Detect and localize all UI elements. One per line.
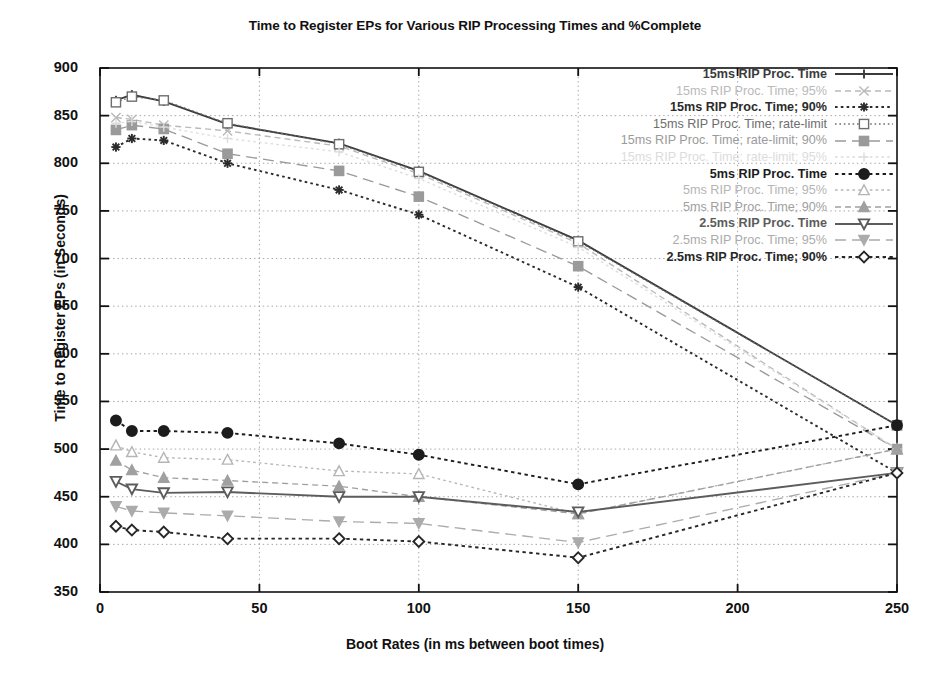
y-axis-ticks: 350400450500550600650700750800850900 xyxy=(20,0,78,673)
x-tick-label: 50 xyxy=(224,600,294,616)
legend-item[interactable]: 15ms RIP Proc. Time; rate-limit; 90% xyxy=(621,132,895,149)
legend-sample-swatch xyxy=(833,99,895,115)
data-point-marker xyxy=(859,70,868,79)
legend-item[interactable]: 5ms RIP Proc. Time; 90% xyxy=(683,199,895,216)
data-point-marker xyxy=(111,455,121,465)
data-point-marker xyxy=(158,527,169,538)
y-tick-label: 700 xyxy=(20,250,78,266)
data-point-marker xyxy=(334,533,345,544)
series-line xyxy=(116,421,897,485)
data-point-marker xyxy=(334,492,344,502)
data-point-marker xyxy=(111,416,121,426)
data-point-marker xyxy=(222,454,232,464)
data-point-marker xyxy=(127,134,136,143)
data-point-marker xyxy=(127,426,137,436)
y-tick-label: 500 xyxy=(20,440,78,456)
legend-item-label: 2.5ms RIP Proc. Time xyxy=(699,217,827,230)
data-point-marker xyxy=(859,136,868,145)
y-tick-label: 400 xyxy=(20,535,78,551)
series-line xyxy=(116,445,897,514)
legend-item[interactable]: 2.5ms RIP Proc. Time xyxy=(699,215,895,232)
legend-sample-swatch xyxy=(833,232,895,248)
data-point-marker xyxy=(111,142,120,151)
legend-item[interactable]: 15ms RIP Proc. Time xyxy=(703,66,895,83)
x-tick-label: 150 xyxy=(543,600,613,616)
data-point-marker xyxy=(222,533,233,544)
data-point-marker xyxy=(126,525,137,536)
y-tick-label: 350 xyxy=(20,583,78,599)
data-point-marker xyxy=(573,552,584,563)
legend-sample-swatch xyxy=(833,182,895,198)
legend-item-label: 2.5ms RIP Proc. Time; 95% xyxy=(673,234,827,247)
data-point-marker xyxy=(127,447,137,457)
data-point-marker xyxy=(335,166,344,175)
legend-sample-swatch xyxy=(833,149,895,165)
data-point-marker xyxy=(859,103,868,112)
legend-item-label: 5ms RIP Proc. Time; 90% xyxy=(683,201,827,214)
series-9 xyxy=(111,468,902,517)
legend-item[interactable]: 2.5ms RIP Proc. Time; 90% xyxy=(666,249,895,266)
legend-item[interactable]: 15ms RIP Proc. Time; rate-limit xyxy=(653,116,895,133)
data-point-marker xyxy=(859,169,869,179)
data-point-marker xyxy=(127,485,137,495)
series-line xyxy=(116,473,897,543)
data-point-marker xyxy=(111,502,121,512)
x-tick-label: 100 xyxy=(384,600,454,616)
data-point-marker xyxy=(859,153,868,162)
data-point-marker xyxy=(414,210,423,219)
y-tick-label: 550 xyxy=(20,392,78,408)
chart-container: Time to Register EPs for Various RIP Pro… xyxy=(0,0,950,673)
legend-item-label: 15ms RIP Proc. Time; 90% xyxy=(670,101,827,114)
data-point-marker xyxy=(222,487,232,497)
legend-item-label: 5ms RIP Proc. Time; 95% xyxy=(683,184,827,197)
data-point-marker xyxy=(859,251,870,262)
data-point-marker xyxy=(111,521,122,532)
legend-sample-swatch xyxy=(833,133,895,149)
legend-sample-swatch xyxy=(833,83,895,99)
data-point-marker xyxy=(127,92,136,101)
data-point-marker xyxy=(413,536,424,547)
series-8 xyxy=(111,444,902,519)
data-point-marker xyxy=(573,538,583,548)
legend-item-label: 5ms RIP Proc. Time xyxy=(710,168,827,181)
data-point-marker xyxy=(159,426,169,436)
chart-title: Time to Register EPs for Various RIP Pro… xyxy=(0,18,950,33)
legend-item[interactable]: 5ms RIP Proc. Time xyxy=(710,166,895,183)
legend-item-label: 15ms RIP Proc. Time; 95% xyxy=(676,85,827,98)
legend-item[interactable]: 15ms RIP Proc. Time; 90% xyxy=(670,99,895,116)
data-point-marker xyxy=(414,192,423,201)
data-point-marker xyxy=(159,96,168,105)
legend-sample-swatch xyxy=(833,249,895,265)
legend-sample-swatch xyxy=(833,166,895,182)
legend-item[interactable]: 5ms RIP Proc. Time; 95% xyxy=(683,182,895,199)
data-point-marker xyxy=(111,98,120,107)
legend-item[interactable]: 15ms RIP Proc. Time; rate-limit; 95% xyxy=(621,149,895,166)
legend-item-label: 15ms RIP Proc. Time; rate-limit; 95% xyxy=(621,151,827,164)
legend-item-label: 15ms RIP Proc. Time xyxy=(703,68,827,81)
data-point-marker xyxy=(223,149,232,158)
legend-item-label: 2.5ms RIP Proc. Time; 90% xyxy=(666,251,827,264)
data-point-marker xyxy=(223,119,232,128)
legend-item[interactable]: 2.5ms RIP Proc. Time; 95% xyxy=(673,232,895,249)
y-tick-label: 900 xyxy=(20,59,78,75)
data-point-marker xyxy=(127,465,137,475)
data-point-marker xyxy=(159,136,168,145)
data-point-marker xyxy=(574,283,583,292)
y-tick-label: 800 xyxy=(20,154,78,170)
x-axis-label: Boot Rates (in ms between boot times) xyxy=(0,636,950,652)
data-point-marker xyxy=(859,119,868,128)
legend-sample-swatch xyxy=(833,116,895,132)
x-tick-label: 0 xyxy=(65,600,135,616)
data-point-marker xyxy=(111,477,121,487)
data-point-marker xyxy=(859,219,869,229)
y-tick-label: 850 xyxy=(20,107,78,123)
legend-item[interactable]: 15ms RIP Proc. Time; 95% xyxy=(676,83,895,100)
y-tick-label: 600 xyxy=(20,345,78,361)
y-tick-label: 450 xyxy=(20,488,78,504)
data-point-marker xyxy=(335,185,344,194)
y-tick-label: 750 xyxy=(20,202,78,218)
data-point-marker xyxy=(111,440,121,450)
legend-sample-swatch xyxy=(833,66,895,82)
data-point-marker xyxy=(334,438,344,448)
data-point-marker xyxy=(159,488,169,498)
